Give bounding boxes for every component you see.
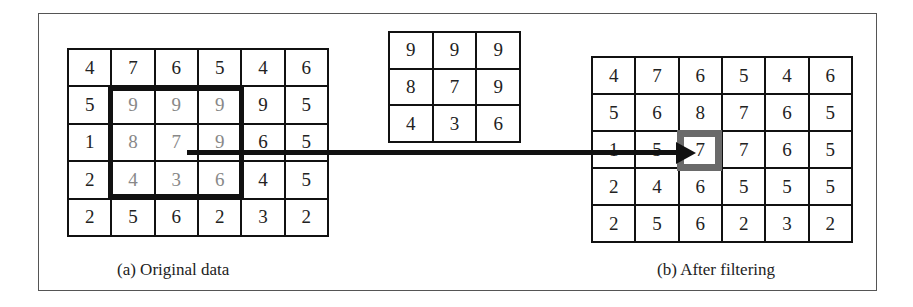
grid-cell: 5: [199, 50, 240, 85]
grid-cell: 5: [636, 206, 677, 241]
grid-cell: 5: [723, 169, 764, 204]
grid-cell: 4: [390, 106, 432, 141]
window-cell: 4: [112, 162, 153, 197]
grid-cell: 7: [723, 132, 764, 167]
grid-cell: 4: [766, 58, 807, 93]
window-cell: 9: [112, 87, 153, 122]
grid-cell: 5: [593, 95, 634, 130]
grid-cell: 6: [286, 50, 327, 85]
grid-cell: 4: [636, 169, 677, 204]
caption-original: (a) Original data: [117, 260, 229, 280]
arrow-head-icon: [676, 142, 696, 164]
caption-filtered: (b) After filtering: [657, 260, 775, 280]
grid-cell: 2: [723, 206, 764, 241]
grid-cell: 6: [680, 58, 721, 93]
window-values-grid: 9 9 9 8 7 9 4 3 6: [388, 31, 521, 143]
grid-cell: 8: [390, 70, 432, 105]
grid-cell: 5: [112, 200, 153, 235]
grid-cell: 6: [680, 206, 721, 241]
grid-cell: 4: [242, 50, 283, 85]
grid-cell: 5: [286, 87, 327, 122]
grid-cell: 4: [242, 162, 283, 197]
grid-cell: 6: [680, 169, 721, 204]
grid-cell: 5: [286, 162, 327, 197]
grid-cell: 2: [593, 206, 634, 241]
grid-cell: 1: [69, 125, 110, 160]
grid-cell: 9: [477, 70, 519, 105]
grid-cell: 7: [636, 58, 677, 93]
grid-cell: 4: [593, 58, 634, 93]
grid-cell: 5: [810, 95, 851, 130]
grid-cell: 3: [242, 200, 283, 235]
grid-cell: 6: [156, 200, 197, 235]
grid-cell: 9: [477, 33, 519, 68]
grid-cell: 6: [766, 132, 807, 167]
window-cell: 9: [199, 87, 240, 122]
arrow-shaft: [187, 150, 679, 155]
grid-cell: 6: [810, 58, 851, 93]
grid-cell: 7: [723, 95, 764, 130]
window-cell: 9: [156, 87, 197, 122]
original-data-grid: 4 7 6 5 4 6 5 9 9 9 9 5 1 8 7 9 6 5 2 4 …: [67, 48, 329, 237]
grid-cell: 8: [680, 95, 721, 130]
grid-cell: 7: [112, 50, 153, 85]
grid-cell: 9: [390, 33, 432, 68]
grid-cell: 9: [434, 33, 476, 68]
grid-cell: 6: [477, 106, 519, 141]
grid-cell: 7: [434, 70, 476, 105]
grid-cell: 2: [286, 200, 327, 235]
grid-cell: 6: [636, 95, 677, 130]
grid-cell: 6: [156, 50, 197, 85]
grid-cell: 2: [199, 200, 240, 235]
grid-cell: 3: [766, 206, 807, 241]
grid-cell: 2: [69, 162, 110, 197]
grid-cell: 5: [810, 169, 851, 204]
grid-cell: 5: [723, 58, 764, 93]
grid-cell: 5: [810, 132, 851, 167]
window-cell: 8: [112, 125, 153, 160]
grid-cell: 2: [810, 206, 851, 241]
grid-cell: 5: [766, 169, 807, 204]
grid-cell: 6: [766, 95, 807, 130]
grid-cell: 2: [69, 200, 110, 235]
window-cell: 6: [199, 162, 240, 197]
grid-cell: 9: [242, 87, 283, 122]
grid-cell: 2: [593, 169, 634, 204]
grid-cell: 4: [69, 50, 110, 85]
grid-cell: 3: [434, 106, 476, 141]
window-cell: 3: [156, 162, 197, 197]
grid-cell: 5: [69, 87, 110, 122]
